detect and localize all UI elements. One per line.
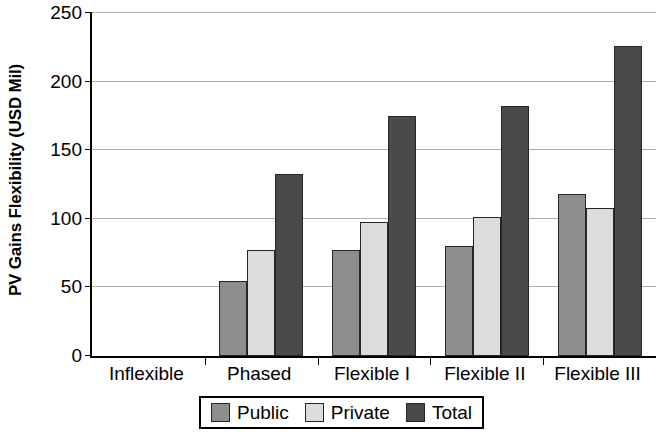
bar-public-flexible-iii: [558, 194, 586, 356]
y-axis-tick-label: 150: [34, 140, 82, 159]
bar-group: [205, 13, 318, 356]
legend-label-public: Public: [237, 403, 289, 422]
bar-group: [543, 13, 656, 356]
plot-area: [90, 13, 656, 358]
x-axis-tick-label: Phased: [203, 362, 316, 386]
y-axis-tick-label: 250: [34, 3, 82, 22]
x-axis-tick-label: Flexible III: [541, 362, 654, 386]
y-axis-tick-label: 100: [34, 209, 82, 228]
legend-entry-total: Total: [406, 403, 472, 422]
legend-entry-private: Private: [305, 403, 390, 422]
y-axis-tick-label: 200: [34, 72, 82, 91]
y-axis-title-text: PV Gains Flexibility (USD Mil): [6, 64, 26, 296]
chart-legend: PublicPrivateTotal: [199, 396, 484, 429]
y-axis-tick-mark: [85, 149, 92, 150]
bar-group: [318, 13, 431, 356]
y-axis-tick-mark: [85, 355, 92, 356]
y-axis-tick-label: 50: [34, 277, 82, 296]
x-axis-tick-label: Flexible I: [316, 362, 429, 386]
legend-entry-public: Public: [211, 403, 289, 422]
y-axis-tick-mark: [85, 286, 92, 287]
legend-swatch-private: [305, 403, 324, 422]
bar-public-flexible-ii: [445, 246, 473, 356]
x-axis-tick-label: Inflexible: [90, 362, 203, 386]
y-axis-tick-mark: [85, 81, 92, 82]
x-axis-tick-labels: InflexiblePhasedFlexible IFlexible IIFle…: [90, 362, 654, 388]
bar-private-phased: [247, 250, 275, 356]
y-axis-tick-mark: [85, 12, 92, 13]
y-axis-tick-label: 0: [34, 346, 82, 365]
y-axis-tick-mark: [85, 218, 92, 219]
y-axis-tick-labels: 050100150200250: [34, 0, 82, 370]
bar-group: [92, 13, 205, 356]
bar-public-flexible-i: [332, 250, 360, 356]
bar-private-flexible-i: [360, 222, 388, 356]
bar-total-phased: [275, 174, 303, 356]
legend-swatch-public: [211, 403, 230, 422]
bar-total-flexible-iii: [614, 46, 642, 356]
legend-label-private: Private: [331, 403, 390, 422]
bar-private-flexible-iii: [586, 208, 614, 356]
x-axis-tick-label: Flexible II: [428, 362, 541, 386]
bar-private-flexible-ii: [473, 217, 501, 356]
legend-swatch-total: [406, 403, 425, 422]
bar-total-flexible-i: [388, 116, 416, 356]
bar-group: [430, 13, 543, 356]
y-axis-title: PV Gains Flexibility (USD Mil): [0, 0, 32, 360]
bar-total-flexible-ii: [501, 106, 529, 356]
legend-label-total: Total: [432, 403, 472, 422]
bar-public-phased: [219, 281, 247, 356]
